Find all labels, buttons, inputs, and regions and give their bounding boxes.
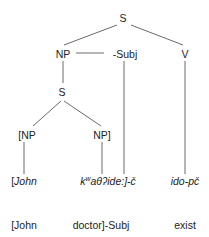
edge-s-np: [64, 25, 117, 45]
node-v: V: [181, 48, 188, 60]
edge-s-npright: [64, 101, 101, 126]
edge-s-npleft: [33, 101, 61, 126]
node-np-right: NP]: [93, 129, 111, 141]
gloss-doctor: doctor]-Subj: [73, 219, 130, 231]
gloss-exist: exist: [174, 219, 196, 231]
leaf-verb: ido-pč: [171, 175, 200, 187]
leaf-john-text: John: [14, 175, 37, 187]
node-np: NP: [56, 48, 71, 60]
node-np-left: [NP: [18, 129, 36, 141]
node-root-s: S: [119, 12, 126, 24]
leaf-doctor-rest: aθʔide:]-č: [90, 175, 135, 187]
leaf-john: [John: [11, 175, 37, 187]
node-inner-s: S: [58, 86, 65, 98]
tree-edges: [0, 0, 209, 237]
gloss-john: [John: [11, 219, 37, 231]
edge-s-v: [131, 25, 183, 45]
leaf-doctor: kwaθʔide:]-č: [80, 175, 136, 187]
node-subj: -Subj: [113, 48, 138, 60]
